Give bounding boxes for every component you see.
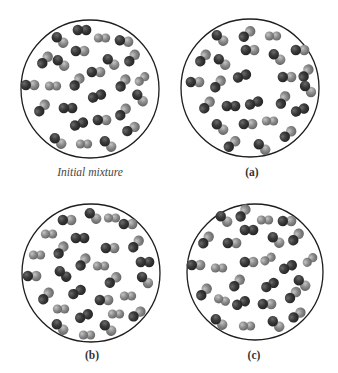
atom <box>222 101 232 111</box>
atom <box>45 81 54 90</box>
atom <box>262 116 271 125</box>
atom <box>93 261 102 270</box>
diagram-stage: Initial mixture (a) (b) (c) <box>0 0 338 373</box>
atom <box>71 46 81 56</box>
atom <box>240 225 250 235</box>
atom <box>258 299 268 309</box>
molecule-diagram <box>0 0 338 373</box>
atom <box>239 321 248 330</box>
atom <box>136 257 146 267</box>
panel-initial-mixture <box>21 20 159 158</box>
atom <box>239 119 249 129</box>
atom <box>104 213 113 222</box>
panel-b <box>22 204 160 342</box>
atom <box>95 295 105 305</box>
container-circle <box>187 204 323 340</box>
atom <box>59 103 69 113</box>
atom <box>71 233 81 243</box>
atom <box>87 67 97 77</box>
atom <box>29 250 38 259</box>
atom <box>240 257 250 267</box>
atom <box>79 330 88 339</box>
atom <box>278 72 288 82</box>
atom <box>93 115 103 125</box>
atom <box>21 80 31 90</box>
atom <box>211 263 220 272</box>
atom <box>41 229 50 238</box>
atom <box>187 260 197 270</box>
atom <box>120 291 129 300</box>
caption-a: (a) <box>245 166 258 178</box>
atom <box>76 139 85 148</box>
caption-c: (c) <box>248 349 261 361</box>
atom <box>186 77 196 87</box>
atom <box>94 33 103 42</box>
container-circle <box>21 20 159 158</box>
atom <box>73 25 83 35</box>
atom <box>119 219 129 229</box>
atom <box>108 309 117 318</box>
caption-initial-mixture: Initial mixture <box>57 166 123 178</box>
atom <box>223 238 233 248</box>
container-circle <box>181 19 319 157</box>
atom <box>291 45 301 55</box>
atom <box>265 31 274 40</box>
atom <box>53 304 62 313</box>
atom <box>278 216 288 226</box>
atom <box>58 215 68 225</box>
caption-b: (b) <box>85 349 99 361</box>
panel-c <box>187 202 323 340</box>
atom <box>257 215 266 224</box>
atom <box>23 271 33 281</box>
panel-a <box>181 19 319 157</box>
atom <box>101 243 111 253</box>
atom <box>241 45 251 55</box>
